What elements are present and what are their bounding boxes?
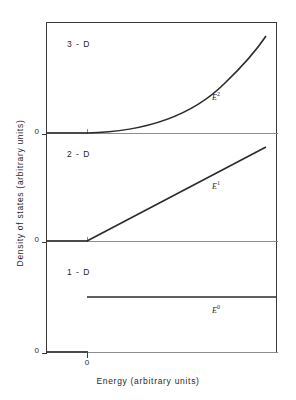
density-of-states-figure: 3 - D 0 E2 2 - D 0 xyxy=(0,0,296,400)
y-tick-1d: 0 xyxy=(42,353,47,354)
plot-frame: 3 - D 0 E2 2 - D 0 xyxy=(46,22,277,353)
annotation-1d-exponent: E0 xyxy=(212,304,220,315)
annotation-1d-power: 0 xyxy=(217,304,220,310)
y-tick-label-2d: 0 xyxy=(35,236,39,244)
x-axis-title: Energy (arbitrary units) xyxy=(0,376,296,386)
zero-segment-1d xyxy=(47,351,88,353)
y-tick-label-3d: 0 xyxy=(35,128,39,136)
x-zero-tick-label: 0 xyxy=(85,359,89,367)
y-tick-label-1d: 0 xyxy=(35,347,39,355)
y-axis-title: Density of states (arbitrary units) xyxy=(15,93,25,293)
curve-layer-1d xyxy=(47,23,278,354)
